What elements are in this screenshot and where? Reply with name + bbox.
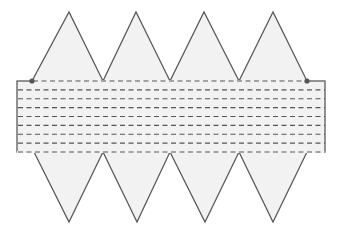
vertex-dot [304,78,309,83]
top-triangle [103,12,170,81]
top-triangle [32,12,103,81]
top-triangle [239,12,307,81]
bottom-triangle [34,152,103,222]
bottom-triangle [170,152,239,222]
bottom-triangle [239,152,307,222]
bottom-triangles [34,152,307,222]
prism-net-diagram [0,0,339,242]
vertex-dot [29,78,34,83]
top-triangle [170,12,239,81]
bottom-triangle [103,152,170,222]
top-triangles [32,12,307,81]
